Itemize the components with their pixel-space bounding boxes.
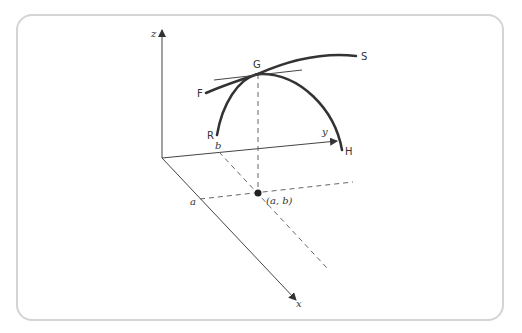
b-mark-label: b (215, 140, 221, 151)
a-mark-label: a (190, 196, 196, 207)
r-label: R (207, 130, 214, 141)
x-axis-label: x (296, 298, 302, 309)
dashed-line-from-b (219, 152, 327, 268)
g-label: G (253, 59, 261, 70)
y-axis (162, 141, 337, 158)
f-label: F (197, 88, 203, 99)
projection-lines (200, 74, 353, 268)
point-ab-marker (255, 190, 262, 197)
h-label: H (345, 146, 353, 157)
z-axis-label: z (150, 28, 157, 39)
axes (162, 30, 337, 300)
x-axis (162, 158, 296, 300)
diagram-canvas: z y x b a (a, b) G F S R H (0, 0, 522, 333)
y-axis-label: y (321, 126, 328, 137)
curve-rgh (217, 74, 342, 150)
curve-fgs (206, 55, 356, 93)
point-ab-label: (a, b) (266, 195, 293, 206)
s-label: S (361, 51, 367, 62)
